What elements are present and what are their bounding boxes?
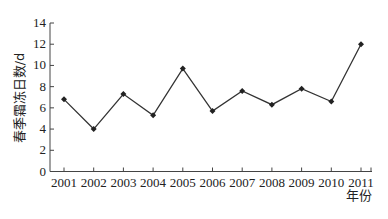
y-tick-label: 0 (40, 164, 47, 179)
x-tick-label: 2001 (51, 175, 77, 190)
line-chart: 02468101214 2001200220032004200520062007… (0, 0, 388, 219)
x-tick-label: 2004 (140, 175, 167, 190)
y-tick-label: 4 (40, 121, 47, 136)
data-point-marker (299, 86, 305, 92)
x-axis: 2001200220032004200520062007200820092010… (50, 168, 374, 191)
y-tick-label: 2 (40, 142, 47, 157)
data-point-marker (269, 102, 275, 108)
x-tick-label: 2008 (259, 175, 285, 190)
data-series (61, 41, 364, 132)
data-point-marker (358, 41, 364, 47)
y-tick-label: 14 (33, 15, 47, 30)
x-tick-label: 2002 (81, 175, 107, 190)
y-tick-label: 8 (40, 79, 47, 94)
y-axis-title: 春季霜冻日数/d (12, 53, 27, 144)
y-axis: 02468101214 (33, 15, 54, 179)
x-tick-label: 2007 (229, 175, 256, 190)
x-tick-label: 2005 (170, 175, 196, 190)
data-point-marker (328, 98, 334, 104)
x-axis-title: 年份 (346, 188, 372, 203)
y-tick-label: 6 (40, 100, 47, 115)
series-line (64, 44, 361, 129)
x-tick-label: 2010 (318, 175, 344, 190)
y-tick-label: 10 (33, 57, 46, 72)
x-tick-label: 2003 (110, 175, 136, 190)
x-tick-label: 2009 (289, 175, 315, 190)
x-tick-label: 2006 (200, 175, 227, 190)
y-tick-label: 12 (33, 36, 46, 51)
